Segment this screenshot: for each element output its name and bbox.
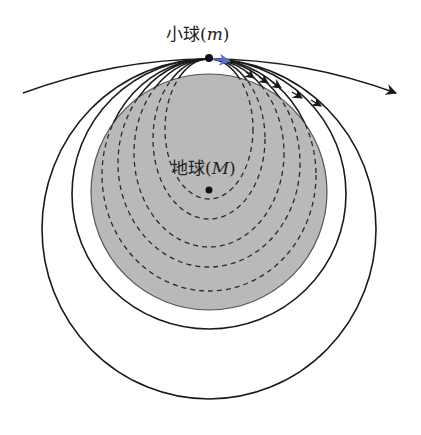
- arrow-icon: [246, 72, 254, 78]
- ball-label: 小球(m): [166, 24, 229, 44]
- earth-label: 地球(M): [171, 158, 236, 178]
- ball-dot: [205, 54, 213, 62]
- earth-center-dot: [206, 187, 213, 194]
- orbit-diagram: 小球(m) 地球(M): [0, 0, 421, 435]
- arrow-icon: [272, 82, 281, 88]
